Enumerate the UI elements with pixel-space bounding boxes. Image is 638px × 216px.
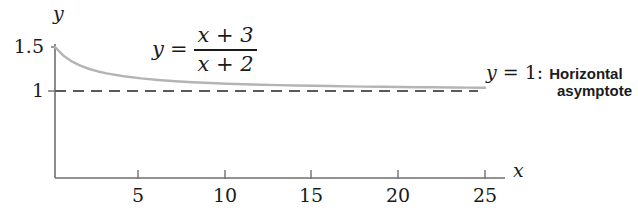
equation-fraction-bar xyxy=(194,49,256,51)
asymptote-equals-sign: = xyxy=(497,61,525,83)
asymptote-text-asymptote: asymptote xyxy=(486,83,636,100)
x-tick-label-10: 10 xyxy=(205,186,245,205)
equation-numerator: x + 3 xyxy=(194,24,256,47)
x-tick-label-25: 25 xyxy=(465,186,505,205)
equation-denominator: x + 2 xyxy=(194,53,256,76)
y-tick-label-1: 1 xyxy=(0,81,44,100)
equation-lhs: y xyxy=(152,39,164,60)
equation-equals-sign: = xyxy=(170,39,188,60)
asymptote-colon: : xyxy=(537,61,549,83)
y-axis-label: y xyxy=(53,4,64,23)
x-axis-label: x xyxy=(513,161,524,180)
x-tick-label-15: 15 xyxy=(291,186,331,205)
x-tick-label-20: 20 xyxy=(378,186,418,205)
asymptote-annotation-line1: y = 1: Horizontal xyxy=(486,62,636,83)
asymptote-value: 1 xyxy=(525,61,537,83)
figure-container: y x 1.5 1 5 10 15 20 25 y = x + 3 x + 2 … xyxy=(0,0,638,216)
asymptote-math-y: y xyxy=(486,61,497,83)
asymptote-text-horizontal: Horizontal xyxy=(549,65,622,82)
equation-fraction: x + 3 x + 2 xyxy=(194,24,256,75)
curve-equation-annotation: y = x + 3 x + 2 xyxy=(152,24,257,75)
asymptote-annotation: y = 1: Horizontal asymptote xyxy=(486,62,636,100)
y-tick-label-1point5: 1.5 xyxy=(0,37,44,56)
curve-line xyxy=(55,47,485,88)
x-tick-label-5: 5 xyxy=(118,186,158,205)
